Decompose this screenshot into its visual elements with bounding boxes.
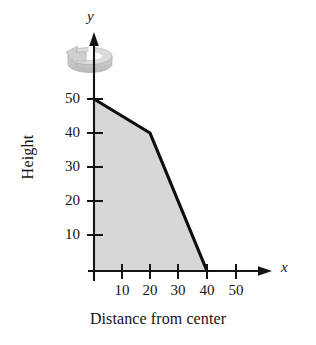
x-axis-symbol: x bbox=[281, 259, 288, 276]
rotation-arrow-icon bbox=[66, 44, 112, 72]
ytick-label-30: 30 bbox=[52, 159, 80, 174]
shaded-region bbox=[94, 99, 207, 271]
ytick-label-40: 40 bbox=[52, 125, 80, 140]
x-axis-title: Distance from center bbox=[0, 310, 316, 328]
ytick-label-10: 10 bbox=[52, 227, 80, 242]
xtick-label-10: 10 bbox=[107, 283, 137, 298]
y-axis-symbol: y bbox=[87, 8, 94, 25]
xtick-label-30: 30 bbox=[163, 283, 193, 298]
ytick-label-20: 20 bbox=[52, 193, 80, 208]
figure-container: 50 40 30 20 10 10 20 30 40 50 y x Height… bbox=[0, 0, 316, 345]
xtick-label-50: 50 bbox=[221, 283, 251, 298]
ytick-label-50: 50 bbox=[52, 91, 80, 106]
y-axis-title: Height bbox=[19, 117, 37, 197]
xtick-label-20: 20 bbox=[135, 283, 165, 298]
xtick-label-40: 40 bbox=[192, 283, 222, 298]
